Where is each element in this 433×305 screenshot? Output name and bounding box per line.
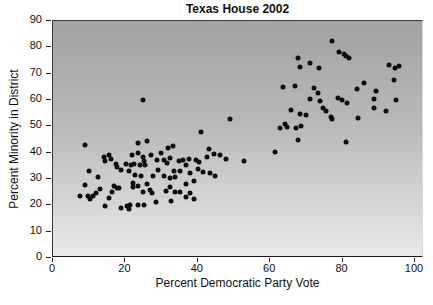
data-point [318, 99, 323, 104]
data-point [347, 56, 352, 61]
data-point [311, 86, 316, 91]
data-point [296, 137, 301, 142]
scatter-plot-figure: Texas House 2002 020406080100 0102030405… [0, 0, 433, 305]
data-point [355, 116, 360, 121]
data-point [154, 158, 159, 163]
data-point [103, 203, 108, 208]
data-point [394, 97, 399, 102]
data-point [138, 174, 143, 179]
data-point [169, 198, 174, 203]
data-point [140, 189, 145, 194]
x-tick-label: 80 [327, 262, 357, 274]
data-point [83, 143, 88, 148]
data-point [103, 158, 108, 163]
x-tick-label: 100 [399, 262, 429, 274]
data-point [204, 154, 209, 159]
data-point [145, 139, 150, 144]
y-tick-mark [46, 204, 51, 205]
data-point [149, 191, 154, 196]
y-tick-label: 10 [14, 224, 42, 236]
data-point [141, 98, 146, 103]
data-point [128, 202, 133, 207]
x-tick-label: 20 [109, 262, 139, 274]
data-point [330, 116, 335, 121]
data-point [192, 179, 197, 184]
y-tick-label: 90 [14, 13, 42, 25]
data-point [227, 116, 232, 121]
plot-area [52, 20, 423, 257]
data-point [110, 190, 115, 195]
data-point [187, 171, 192, 176]
y-tick-label: 0 [14, 250, 42, 262]
data-point [142, 203, 147, 208]
data-point [317, 66, 322, 71]
data-point [343, 139, 348, 144]
data-point [304, 112, 309, 117]
data-point [197, 159, 202, 164]
data-point [330, 39, 335, 44]
y-tick-mark [46, 99, 51, 100]
data-point [284, 125, 289, 130]
data-point [150, 174, 155, 179]
y-tick-mark [46, 231, 51, 232]
data-point [199, 130, 204, 135]
data-point [131, 161, 136, 166]
data-point [129, 153, 134, 158]
data-point [156, 167, 161, 172]
data-point [184, 162, 189, 167]
data-point [158, 150, 163, 155]
data-point [78, 193, 83, 198]
data-point [217, 153, 222, 158]
data-point [133, 172, 138, 177]
data-point [223, 157, 228, 162]
data-point [273, 149, 278, 154]
data-point [98, 187, 103, 192]
data-point [178, 168, 183, 173]
data-point [213, 173, 218, 178]
y-axis-label: Percent Minority in District [7, 59, 21, 219]
data-point [170, 143, 175, 148]
data-point [297, 111, 302, 116]
data-point [154, 200, 159, 205]
data-point [168, 155, 173, 160]
data-point [183, 181, 188, 186]
data-point [145, 182, 150, 187]
data-point [296, 56, 301, 61]
y-tick-mark [46, 125, 51, 126]
data-point [192, 196, 197, 201]
data-point [387, 63, 392, 68]
data-point [372, 97, 377, 102]
data-point [131, 185, 136, 190]
data-point [280, 84, 285, 89]
data-point [293, 83, 298, 88]
data-point [298, 65, 303, 70]
data-point [95, 175, 100, 180]
y-tick-mark [46, 46, 51, 47]
data-point [94, 191, 99, 196]
data-point [178, 190, 183, 195]
data-point [206, 147, 211, 152]
data-point [371, 105, 376, 110]
data-point [87, 168, 92, 173]
data-point [289, 107, 294, 112]
data-point [127, 168, 132, 173]
data-point [307, 61, 312, 66]
y-tick-mark [46, 73, 51, 74]
data-point [119, 205, 124, 210]
x-tick-label: 60 [254, 262, 284, 274]
data-point [142, 163, 147, 168]
data-point [83, 183, 88, 188]
data-point [167, 185, 172, 190]
data-point [107, 196, 112, 201]
data-point [135, 150, 140, 155]
data-point [119, 167, 124, 172]
y-tick-mark [46, 257, 51, 258]
data-point [108, 156, 113, 161]
y-tick-mark [46, 178, 51, 179]
data-point [172, 168, 177, 173]
y-tick-label: 80 [14, 39, 42, 51]
data-point [200, 169, 205, 174]
data-point [136, 183, 141, 188]
data-point [374, 89, 379, 94]
x-axis-label: Percent Democratic Party Vote [52, 276, 423, 290]
